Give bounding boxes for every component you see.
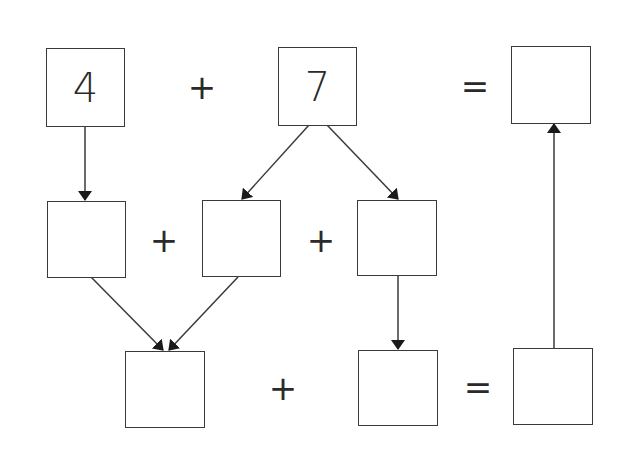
plus-sign: +	[307, 223, 336, 257]
box-addend-4: 4	[46, 48, 125, 127]
plus-sign: +	[269, 371, 298, 405]
equals-sign: =	[464, 370, 493, 404]
plus-sign: +	[188, 70, 217, 104]
diagram-canvas: 4 + 7 = + + + =	[0, 0, 631, 450]
box-value: 7	[305, 64, 330, 110]
plus-sign: +	[150, 223, 179, 257]
equals-sign: =	[461, 69, 490, 103]
box-split-a[interactable]	[47, 201, 126, 278]
box-addend-7: 7	[278, 47, 357, 126]
box-split-b[interactable]	[202, 200, 281, 277]
box-value: 4	[73, 65, 98, 111]
box-ten[interactable]	[125, 351, 205, 428]
box-result[interactable]	[511, 46, 591, 124]
arrow-box2-to-boxB	[242, 125, 309, 199]
box-sum[interactable]	[513, 348, 593, 425]
arrow-box2-to-boxC	[327, 125, 398, 199]
arrow-boxA-to-boxD	[91, 277, 163, 350]
box-remainder[interactable]	[358, 350, 438, 426]
box-split-c[interactable]	[357, 200, 437, 276]
arrow-boxB-to-boxD	[169, 277, 238, 350]
